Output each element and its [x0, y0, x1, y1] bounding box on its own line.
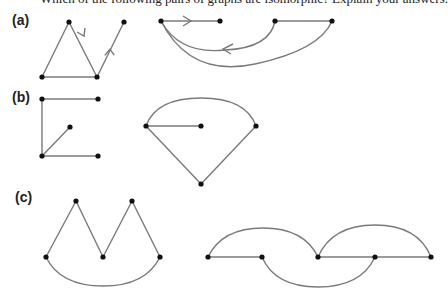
graph-b-left [39, 96, 100, 158]
graph-a-left [39, 19, 126, 79]
graph-c-left [43, 198, 162, 286]
graph-a-right [158, 16, 334, 67]
graph-b-right [143, 98, 258, 187]
graph-c-right [205, 225, 433, 287]
